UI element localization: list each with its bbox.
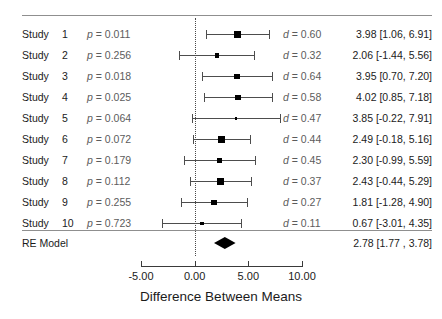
ci-cap-upper bbox=[272, 72, 273, 81]
axis-tick bbox=[195, 261, 196, 267]
summary-diamond-shape bbox=[213, 237, 237, 249]
confidence-interval bbox=[0, 129, 442, 150]
x-axis-title: Difference Between Means bbox=[0, 289, 442, 304]
header-rule bbox=[22, 15, 432, 16]
axis-line bbox=[141, 266, 302, 267]
point-estimate-marker bbox=[235, 95, 241, 101]
ci-cap-upper bbox=[255, 156, 256, 165]
confidence-interval bbox=[0, 45, 442, 66]
axis-tick bbox=[248, 261, 249, 267]
ci-cap-upper bbox=[254, 51, 255, 60]
ci-cap-lower bbox=[162, 219, 163, 228]
axis-tick-label: -5.00 bbox=[128, 270, 153, 282]
study-row: Study4p = 0.025d = 0.584.02 [0.85, 7.18] bbox=[0, 87, 442, 108]
confidence-interval bbox=[0, 192, 442, 213]
study-row: Study10p = 0.723d = 0.110.67 [-3.01, 4.3… bbox=[0, 213, 442, 234]
ci-cap-upper bbox=[250, 135, 251, 144]
ci-cap-lower bbox=[184, 156, 185, 165]
confidence-interval bbox=[0, 66, 442, 87]
point-estimate-marker bbox=[217, 178, 224, 185]
summary-label: RE Model bbox=[22, 233, 68, 254]
study-row: Study1p = 0.011d = 0.603.98 [1.06, 6.91] bbox=[0, 24, 442, 45]
ci-cap-lower bbox=[192, 114, 193, 123]
axis-tick-label: 10.00 bbox=[288, 270, 316, 282]
ci-cap-lower bbox=[181, 198, 182, 207]
ci-cap-upper bbox=[269, 30, 270, 39]
point-estimate-marker bbox=[200, 222, 204, 226]
forest-plot: Study1p = 0.011d = 0.603.98 [1.06, 6.91]… bbox=[0, 0, 442, 319]
confidence-interval bbox=[0, 108, 442, 129]
ci-cap-upper bbox=[280, 114, 281, 123]
study-row: Study2p = 0.256d = 0.322.06 [-1.44, 5.56… bbox=[0, 45, 442, 66]
summary-row: RE Model 2.78 [1.77 , 3.78] bbox=[0, 233, 442, 254]
point-estimate-marker bbox=[211, 200, 217, 206]
point-estimate-marker bbox=[217, 158, 222, 163]
ci-cap-lower bbox=[206, 30, 207, 39]
ci-cap-upper bbox=[251, 177, 252, 186]
confidence-interval bbox=[0, 150, 442, 171]
study-row: Study9p = 0.255d = 0.271.81 [-1.28, 4.90… bbox=[0, 192, 442, 213]
ci-cap-lower bbox=[202, 72, 203, 81]
ci-cap-lower bbox=[190, 177, 191, 186]
point-estimate-marker bbox=[215, 53, 220, 58]
ci-cap-lower bbox=[193, 135, 194, 144]
ci-cap-upper bbox=[241, 219, 242, 228]
confidence-interval bbox=[0, 87, 442, 108]
summary-estimate: 2.78 [1.77 , 3.78] bbox=[353, 233, 432, 254]
point-estimate-marker bbox=[235, 117, 238, 120]
point-estimate-marker bbox=[218, 136, 226, 144]
point-estimate-marker bbox=[234, 74, 239, 79]
ci-cap-lower bbox=[204, 93, 205, 102]
ci-cap-upper bbox=[272, 93, 273, 102]
confidence-interval bbox=[0, 24, 442, 45]
ci-cap-upper bbox=[247, 198, 248, 207]
study-row: Study8p = 0.112d = 0.372.43 [-0.44, 5.29… bbox=[0, 171, 442, 192]
confidence-interval bbox=[0, 171, 442, 192]
study-row: Study5p = 0.064d = 0.473.85 [-0.22, 7.91… bbox=[0, 108, 442, 129]
ci-cap-lower bbox=[179, 51, 180, 60]
axis-tick-label: 5.00 bbox=[238, 270, 259, 282]
point-estimate-marker bbox=[234, 31, 241, 38]
study-row: Study7p = 0.179d = 0.452.30 [-0.99, 5.59… bbox=[0, 150, 442, 171]
axis-tick bbox=[141, 261, 142, 267]
study-row: Study6p = 0.072d = 0.442.49 [-0.18, 5.16… bbox=[0, 129, 442, 150]
confidence-interval bbox=[0, 213, 442, 234]
axis-tick bbox=[302, 261, 303, 267]
study-row: Study3p = 0.018d = 0.643.95 [0.70, 7.20] bbox=[0, 66, 442, 87]
axis-tick-label: 0.00 bbox=[184, 270, 205, 282]
